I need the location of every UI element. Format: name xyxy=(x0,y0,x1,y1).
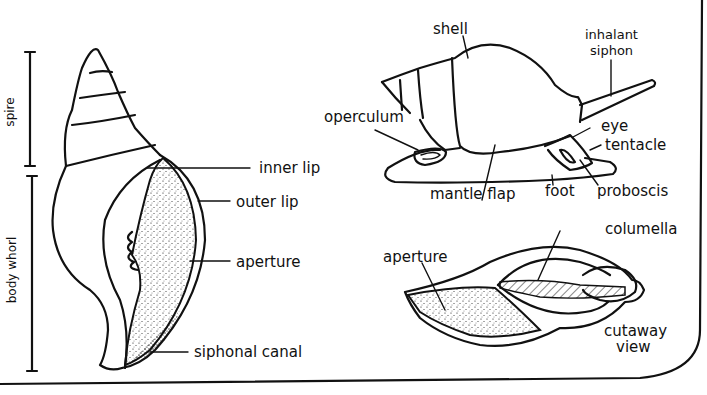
label-body-whorl: body whorl xyxy=(5,237,19,304)
label-spire: spire xyxy=(3,97,17,126)
label-foot: foot xyxy=(545,182,575,200)
snail-anatomy-diagram: spire body whorl inner lip outer lip ape… xyxy=(0,0,707,395)
animal-shell xyxy=(382,45,582,122)
label-view: view xyxy=(616,338,651,356)
label-siphonal-canal: siphonal canal xyxy=(194,343,302,361)
label-proboscis: proboscis xyxy=(597,182,668,200)
columella-hatch xyxy=(500,281,625,299)
body-whorl-bracket xyxy=(27,176,37,371)
cutaway-aperture-fill xyxy=(408,287,540,336)
label-aperture-left: aperture xyxy=(236,253,301,271)
label-inner-lip: inner lip xyxy=(259,159,320,177)
spire-bracket xyxy=(25,52,35,166)
shell-front-view xyxy=(25,49,250,371)
animal-foot xyxy=(385,150,616,183)
spire-outline xyxy=(65,49,160,166)
label-tentacle: tentacle xyxy=(605,136,666,154)
inhalant-siphon xyxy=(580,80,655,120)
label-outer-lip: outer lip xyxy=(236,193,299,211)
label-eye: eye xyxy=(601,117,628,135)
label-shell: shell xyxy=(433,20,468,38)
label-siphon: siphon xyxy=(590,43,633,58)
label-columella: columella xyxy=(605,220,677,238)
label-mantle-flap: mantle flap xyxy=(430,185,516,203)
body-whorl-outline xyxy=(53,166,122,369)
label-inhalant: inhalant xyxy=(585,27,638,42)
label-operculum: operculum xyxy=(324,108,404,126)
label-aperture-cutaway: aperture xyxy=(383,248,448,266)
